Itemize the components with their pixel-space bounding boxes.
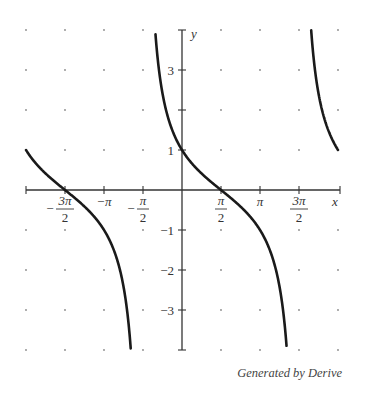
grid-dot <box>25 69 27 71</box>
grid-dot <box>142 269 144 271</box>
svg-text:2: 2 <box>140 210 147 225</box>
svg-text:2: 2 <box>62 210 69 225</box>
grid-dot <box>142 229 144 231</box>
grid-dot <box>64 309 66 311</box>
y-tick-label: 1 <box>168 143 175 158</box>
grid-dot <box>337 109 339 111</box>
grid-dot <box>64 269 66 271</box>
grid-dot <box>220 269 222 271</box>
x-tick-label: π <box>257 194 264 209</box>
curve-branch <box>311 30 338 150</box>
grid-dot <box>298 29 300 31</box>
grid-dot <box>25 269 27 271</box>
grid-dot <box>220 229 222 231</box>
axes <box>26 30 340 350</box>
grid-dot <box>64 29 66 31</box>
svg-text:3π: 3π <box>291 193 306 208</box>
svg-text:−: − <box>46 201 53 216</box>
grid-dot <box>298 69 300 71</box>
svg-text:π: π <box>218 193 225 208</box>
x-tick-label: −π <box>96 194 112 209</box>
grid-dot <box>220 29 222 31</box>
grid-dot <box>64 69 66 71</box>
y-tick-label: −1 <box>160 223 174 238</box>
x-tick-fraction-label: 3π2 <box>290 193 308 225</box>
grid-dot <box>298 269 300 271</box>
grid-dot <box>259 349 261 351</box>
grid-dot <box>142 29 144 31</box>
grid-dot <box>298 229 300 231</box>
grid-dot <box>103 109 105 111</box>
grid-dot <box>64 109 66 111</box>
grid-dot <box>337 229 339 231</box>
grid-dot <box>103 149 105 151</box>
svg-text:π: π <box>140 193 147 208</box>
function-plot: 3π2−−ππ2−π2π3π231−1−2−3 x y <box>0 0 370 396</box>
grid-dot <box>220 309 222 311</box>
grid-dot <box>298 309 300 311</box>
svg-text:2: 2 <box>218 210 225 225</box>
grid-dot <box>25 29 27 31</box>
grid-dot <box>259 309 261 311</box>
y-axis-label: y <box>189 26 197 41</box>
grid-dot <box>103 309 105 311</box>
grid-dot <box>103 69 105 71</box>
grid-dot <box>25 349 27 351</box>
grid-dot <box>64 229 66 231</box>
y-tick-label: −2 <box>160 263 174 278</box>
grid-dot <box>25 229 27 231</box>
x-tick-fraction-label: 3π2− <box>46 193 74 225</box>
grid-dot <box>142 349 144 351</box>
grid-dot <box>259 149 261 151</box>
grid-dot <box>298 149 300 151</box>
grid-dot <box>337 269 339 271</box>
y-tick-label: −3 <box>160 303 174 318</box>
grid-dot <box>103 349 105 351</box>
grid-dot <box>64 349 66 351</box>
grid-dot <box>220 349 222 351</box>
grid-dot <box>25 109 27 111</box>
grid-dot <box>298 349 300 351</box>
grid-dot <box>337 309 339 311</box>
caption: Generated by Derive <box>237 366 342 381</box>
grid-dot <box>220 149 222 151</box>
x-tick-fraction-label: π2 <box>215 193 227 225</box>
grid-dot <box>64 149 66 151</box>
grid-dot <box>259 269 261 271</box>
grid-dot <box>142 149 144 151</box>
grid-dot <box>337 349 339 351</box>
grid-dot <box>103 269 105 271</box>
grid-dot <box>220 69 222 71</box>
grid-dot <box>259 29 261 31</box>
grid-dot <box>142 309 144 311</box>
x-tick-fraction-label: π2− <box>127 193 149 225</box>
grid-dot <box>337 29 339 31</box>
grid-dot <box>142 109 144 111</box>
grid-dot <box>142 69 144 71</box>
grid-dot <box>337 69 339 71</box>
x-axis-label: x <box>331 194 338 209</box>
curve-branch <box>26 150 131 348</box>
grid-dot <box>298 109 300 111</box>
y-tick-label: 3 <box>168 63 175 78</box>
grid-dot <box>220 109 222 111</box>
grid-dot <box>25 309 27 311</box>
svg-text:2: 2 <box>296 210 303 225</box>
grid-dot <box>259 109 261 111</box>
svg-text:−: − <box>127 201 134 216</box>
grid-dot <box>259 69 261 71</box>
grid-dot <box>103 29 105 31</box>
